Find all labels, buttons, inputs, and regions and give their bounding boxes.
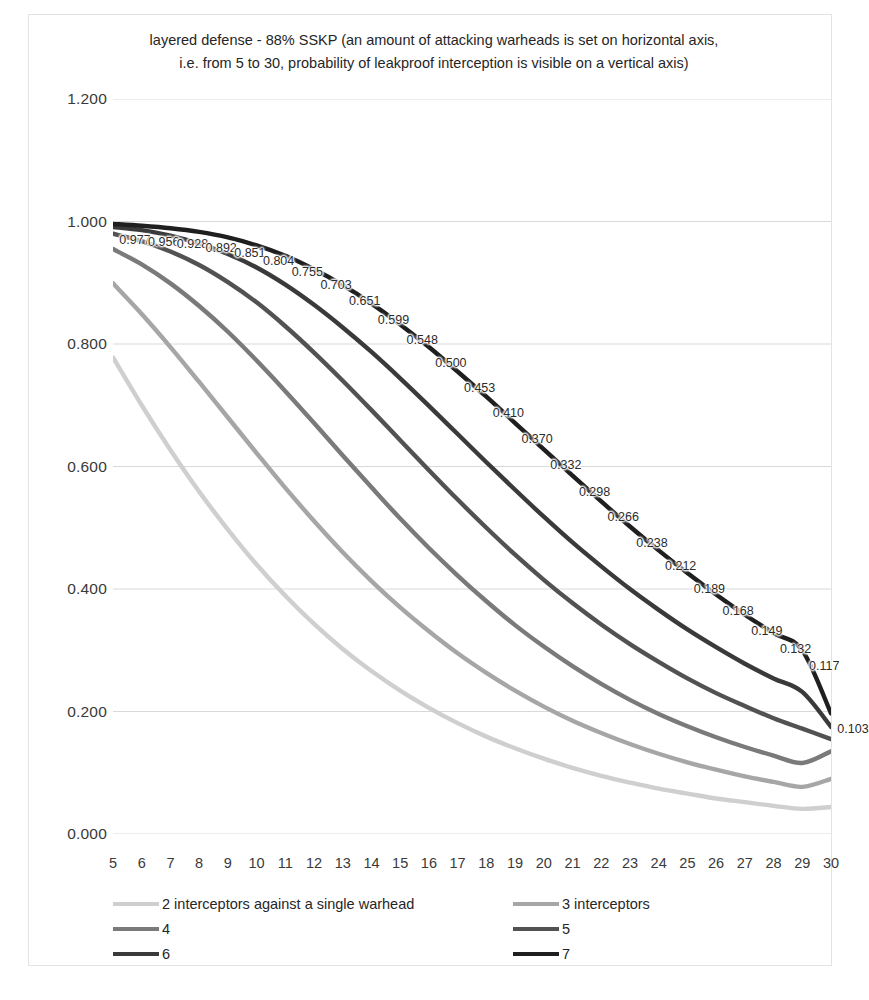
legend-swatch-icon <box>513 902 559 906</box>
data-label: 0.189 <box>694 582 725 596</box>
data-label: 0.370 <box>521 432 552 446</box>
data-label: 0.332 <box>550 458 581 472</box>
data-label: 0.132 <box>780 642 811 656</box>
data-label: 0.892 <box>206 241 237 255</box>
data-label: 0.599 <box>378 313 409 327</box>
data-label: 0.149 <box>751 624 782 638</box>
legend-label: 2 interceptors against a single warhead <box>162 896 414 912</box>
x-tick-label: 7 <box>166 855 174 871</box>
y-tick-label: 1.200 <box>45 90 107 108</box>
plot-area: 0.9770.9560.9280.8920.8510.8040.7550.703… <box>113 99 831 834</box>
y-tick-label: 0.800 <box>45 335 107 353</box>
series-lines <box>113 224 831 809</box>
data-label: 0.103 <box>837 722 868 736</box>
data-label: 0.500 <box>435 356 466 370</box>
x-tick-label: 25 <box>679 855 695 871</box>
x-tick-label: 20 <box>536 855 552 871</box>
data-label: 0.548 <box>407 333 438 347</box>
y-tick-label: 1.000 <box>45 213 107 231</box>
legend-item[interactable]: 2 interceptors against a single warhead <box>113 893 414 915</box>
chart-title: layered defense - 88% SSKP (an amount of… <box>69 29 799 75</box>
legend-label: 5 <box>562 921 570 937</box>
x-tick-label: 8 <box>195 855 203 871</box>
x-tick-label: 15 <box>392 855 408 871</box>
chart-legend: 2 interceptors against a single warhead3… <box>113 893 813 965</box>
x-tick-label: 6 <box>138 855 146 871</box>
legend-label: 3 interceptors <box>562 896 650 912</box>
data-label: 0.804 <box>263 254 294 268</box>
series-line-4 <box>113 249 831 763</box>
data-label: 0.298 <box>579 485 610 499</box>
legend-item[interactable]: 7 <box>513 943 570 965</box>
legend-item[interactable]: 3 interceptors <box>513 893 650 915</box>
gridlines <box>113 99 831 834</box>
x-tick-label: 30 <box>823 855 839 871</box>
legend-label: 7 <box>562 946 570 962</box>
x-tick-label: 17 <box>450 855 466 871</box>
y-tick-label: 0.600 <box>45 458 107 476</box>
legend-swatch-icon <box>513 927 559 931</box>
data-label: 0.851 <box>234 246 265 260</box>
data-label: 0.651 <box>349 294 380 308</box>
series-line-7 <box>113 224 831 713</box>
x-tick-label: 26 <box>708 855 724 871</box>
x-tick-label: 29 <box>794 855 810 871</box>
y-axis: 1.2001.0000.8000.6000.4000.2000.000 <box>29 75 107 855</box>
x-tick-label: 18 <box>478 855 494 871</box>
plot-svg <box>113 99 831 834</box>
chart-frame: layered defense - 88% SSKP (an amount of… <box>28 14 832 966</box>
legend-swatch-icon <box>513 952 559 956</box>
data-label: 0.117 <box>809 659 839 673</box>
data-label: 0.703 <box>320 278 351 292</box>
x-tick-label: 27 <box>737 855 753 871</box>
series-line-6 <box>113 227 831 727</box>
legend-item[interactable]: 4 <box>113 918 170 940</box>
y-tick-label: 0.000 <box>45 825 107 843</box>
data-label: 0.928 <box>177 237 208 251</box>
x-tick-label: 19 <box>507 855 523 871</box>
legend-label: 4 <box>162 921 170 937</box>
x-tick-label: 5 <box>109 855 117 871</box>
data-label: 0.755 <box>292 265 323 279</box>
legend-item[interactable]: 6 <box>113 943 170 965</box>
data-label: 0.266 <box>608 510 639 524</box>
x-tick-label: 16 <box>421 855 437 871</box>
x-tick-label: 22 <box>593 855 609 871</box>
legend-swatch-icon <box>113 902 159 906</box>
x-tick-label: 12 <box>306 855 322 871</box>
y-tick-label: 0.400 <box>45 580 107 598</box>
x-tick-label: 10 <box>249 855 265 871</box>
x-tick-label: 24 <box>651 855 667 871</box>
data-label: 0.212 <box>665 559 696 573</box>
x-axis: 5678910111213141516171819202122232425262… <box>113 855 831 879</box>
legend-label: 6 <box>162 946 170 962</box>
data-label: 0.977 <box>119 233 150 247</box>
x-tick-label: 28 <box>765 855 781 871</box>
x-tick-label: 13 <box>335 855 351 871</box>
legend-swatch-icon <box>113 952 159 956</box>
data-label: 0.168 <box>722 604 753 618</box>
legend-item[interactable]: 5 <box>513 918 570 940</box>
data-label: 0.410 <box>493 406 524 420</box>
x-tick-label: 14 <box>363 855 379 871</box>
data-label: 0.956 <box>148 235 179 249</box>
x-tick-label: 9 <box>224 855 232 871</box>
data-label: 0.238 <box>636 536 667 550</box>
legend-swatch-icon <box>113 927 159 931</box>
y-tick-label: 0.200 <box>45 703 107 721</box>
x-tick-label: 11 <box>278 855 293 871</box>
data-label: 0.453 <box>464 381 495 395</box>
x-tick-label: 21 <box>564 855 580 871</box>
x-tick-label: 23 <box>622 855 638 871</box>
